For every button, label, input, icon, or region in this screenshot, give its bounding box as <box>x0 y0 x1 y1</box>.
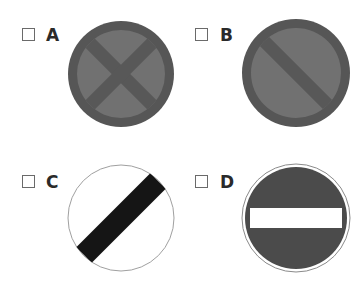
option-a-label: A <box>46 27 59 44</box>
option-b-checkbox[interactable] <box>195 28 208 41</box>
option-d-checkbox[interactable] <box>195 175 208 188</box>
option-b-label: B <box>220 27 233 44</box>
option-d-label: D <box>220 174 234 191</box>
no-waiting-sign-icon <box>241 18 351 128</box>
no-stopping-sign-icon <box>66 19 176 129</box>
national-speed-limit-sign-icon <box>66 163 176 273</box>
option-a-checkbox[interactable] <box>22 28 35 41</box>
no-entry-sign-icon <box>241 163 351 273</box>
option-c-checkbox[interactable] <box>22 175 35 188</box>
option-c-label: C <box>46 174 58 191</box>
